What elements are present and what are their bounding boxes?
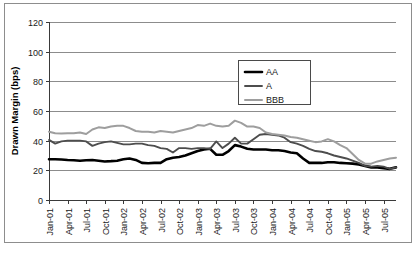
chart-legend: AAABBB <box>239 61 311 106</box>
x-tick-label: Jul-01 <box>82 208 92 233</box>
x-tick-label: Oct-03 <box>249 208 259 235</box>
x-tick-label: Oct-04 <box>324 208 334 235</box>
legend-label-a: A <box>266 81 272 91</box>
x-tick-label: Jul-04 <box>305 208 315 233</box>
y-tick-label: 100 <box>28 48 43 58</box>
y-tick-label: 20 <box>33 166 43 176</box>
y-tick-label: 40 <box>33 137 43 147</box>
x-tick-label: Jul-03 <box>231 208 241 233</box>
x-tick-label: Oct-02 <box>175 208 185 235</box>
x-tick-label: Apr-05 <box>361 208 371 235</box>
x-tick-label: Apr-03 <box>212 208 222 235</box>
x-tick-label: Apr-01 <box>64 208 74 235</box>
x-tick-label: Jul-05 <box>380 208 390 233</box>
x-tick-label: Jan-02 <box>119 208 129 236</box>
y-tick-label: 0 <box>38 196 43 206</box>
y-axis-title: Drawn Margin (bps) <box>9 67 20 156</box>
x-tick-label: Jan-04 <box>268 208 278 236</box>
x-ticks: Jan-01Apr-01Jul-01Oct-01Jan-02Apr-02Jul-… <box>45 200 390 236</box>
x-tick-label: Jul-02 <box>157 208 167 233</box>
x-tick-label: Jan-05 <box>342 208 352 236</box>
series-group <box>49 121 396 169</box>
legend-label-bbb: BBB <box>266 95 284 105</box>
chart-plot-container: 020406080100120Jan-01Apr-01Jul-01Oct-01J… <box>5 4 413 244</box>
y-gridlines: 020406080100120 <box>28 18 396 206</box>
x-tick-label: Apr-04 <box>287 208 297 235</box>
line-chart: 020406080100120Jan-01Apr-01Jul-01Oct-01J… <box>5 4 413 244</box>
chart-figure-frame: 020406080100120Jan-01Apr-01Jul-01Oct-01J… <box>4 3 412 243</box>
x-tick-label: Jan-01 <box>45 208 55 236</box>
y-tick-label: 80 <box>33 77 43 87</box>
x-tick-label: Jan-03 <box>194 208 204 236</box>
y-tick-label: 120 <box>28 18 43 28</box>
y-tick-label: 60 <box>33 107 43 117</box>
x-tick-label: Oct-01 <box>101 208 111 235</box>
legend-label-aa: AA <box>266 67 278 77</box>
x-tick-label: Apr-02 <box>138 208 148 235</box>
